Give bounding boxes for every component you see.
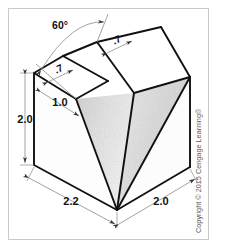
figure-container: 60° .7 .7 2.0 1.0 2.2 — [0, 0, 226, 248]
v-block-isometric-drawing: 60° .7 .7 2.0 1.0 2.2 — [0, 0, 226, 248]
copyright-notice: Copyright © 2015 Cengage Learning® — [194, 108, 203, 233]
height-dimension-label: 2.0 — [17, 113, 32, 125]
front-width-label: 2.2 — [63, 195, 78, 207]
side-depth-label: 2.0 — [153, 195, 168, 207]
groove-depth-label: 1.0 — [52, 96, 67, 108]
angle-dimension-label: 60° — [52, 19, 68, 31]
